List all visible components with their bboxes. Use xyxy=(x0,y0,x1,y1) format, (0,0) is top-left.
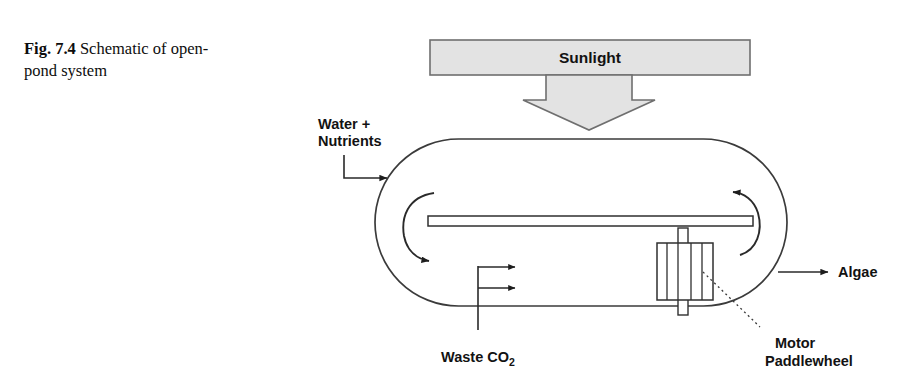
paddlewheel-assembly xyxy=(657,228,713,315)
figure-container: Fig. 7.4 Schematic of open-pond system S… xyxy=(0,0,903,380)
water-nutrients-group: Water + Nutrients xyxy=(318,116,387,178)
paddlewheel-shaft-upper xyxy=(678,228,688,244)
motor-paddlewheel-callout: Motor Paddlewheel xyxy=(703,272,853,369)
water-nutrients-label-line2: Nutrients xyxy=(318,133,382,149)
paddlewheel-label: Paddlewheel xyxy=(765,353,853,369)
open-pond-schematic: Sunlight xyxy=(0,0,903,380)
pond-divider-wall xyxy=(428,216,753,226)
water-nutrients-leader-line xyxy=(344,155,387,178)
left-circulation-arrow xyxy=(403,193,434,261)
paddlewheel-shaft-lower xyxy=(678,299,688,315)
waste-co2-group: Waste CO2 xyxy=(441,266,515,368)
motor-label: Motor xyxy=(775,335,816,351)
water-nutrients-label-line1: Water + xyxy=(318,116,370,132)
algae-group: Algae xyxy=(778,264,878,280)
sunlight-label: Sunlight xyxy=(559,49,621,66)
sunlight-banner-group: Sunlight xyxy=(430,40,750,130)
algae-label: Algae xyxy=(838,264,878,280)
paddlewheel-body xyxy=(657,243,713,300)
sunlight-arrow-shape xyxy=(523,75,655,130)
waste-co2-label: Waste CO2 xyxy=(441,349,515,368)
pond-group xyxy=(375,139,787,306)
